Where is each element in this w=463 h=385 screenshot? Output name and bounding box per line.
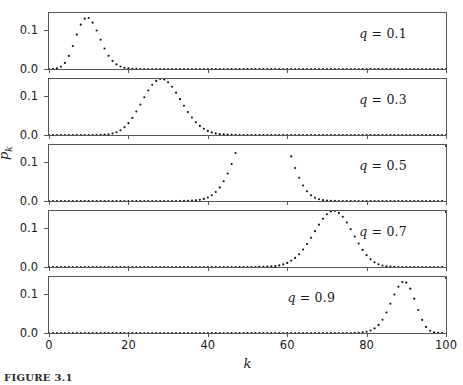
x-tick-mark: [208, 69, 209, 73]
y-tick-mark: [44, 201, 48, 202]
x-tick-mark: [49, 69, 50, 73]
x-tick-label: 100: [426, 338, 463, 352]
x-tick-mark: [128, 201, 129, 205]
annotation-q-0-3: q = 0.3: [359, 92, 407, 107]
x-tick-mark: [287, 267, 288, 271]
x-tick-label: 80: [347, 338, 387, 352]
y-tick-label: 0.1: [8, 155, 38, 169]
y-tick-mark: [44, 96, 48, 97]
x-tick-mark: [367, 267, 368, 271]
x-tick-mark: [128, 267, 129, 271]
y-tick-label: 0.1: [8, 23, 38, 37]
panel-q-0-1: [48, 12, 447, 70]
x-tick-mark: [446, 333, 447, 337]
annotation-q-0-5: q = 0.5: [359, 158, 407, 173]
x-tick-label: 20: [108, 338, 148, 352]
x-tick-mark: [49, 201, 50, 205]
x-tick-label: 60: [267, 338, 307, 352]
x-tick-label: 0: [29, 338, 69, 352]
y-tick-label: 0.0: [8, 128, 38, 142]
x-tick-mark: [128, 333, 129, 337]
x-tick-mark: [446, 69, 447, 73]
x-tick-mark: [367, 135, 368, 139]
panel-q-0-9: [48, 276, 447, 334]
y-tick-mark: [44, 267, 48, 268]
x-tick-mark: [367, 333, 368, 337]
scatter-canvas-4: [49, 277, 446, 333]
x-tick-mark: [287, 135, 288, 139]
panel-q-0-5: [48, 144, 447, 202]
scatter-canvas-1: [49, 79, 446, 135]
x-tick-mark: [446, 135, 447, 139]
y-tick-label: 0.0: [8, 194, 38, 208]
y-tick-mark: [44, 228, 48, 229]
figure-caption: FIGURE 3.1: [4, 372, 73, 385]
y-tick-label: 0.0: [8, 62, 38, 76]
x-tick-mark: [446, 201, 447, 205]
annotation-q-0-1: q = 0.1: [359, 26, 407, 41]
y-tick-mark: [44, 30, 48, 31]
y-tick-mark: [44, 135, 48, 136]
y-tick-mark: [44, 162, 48, 163]
scatter-canvas-0: [49, 13, 446, 69]
y-tick-label: 0.1: [8, 287, 38, 301]
x-tick-mark: [367, 201, 368, 205]
x-tick-mark: [367, 69, 368, 73]
x-tick-mark: [287, 69, 288, 73]
y-tick-label: 0.1: [8, 221, 38, 235]
x-tick-mark: [446, 267, 447, 271]
x-tick-mark: [208, 201, 209, 205]
plot-panels: pk q = 0.1 q = 0.3 q = 0.5 q = 0.7 q = 0…: [0, 0, 463, 360]
x-tick-mark: [208, 267, 209, 271]
x-tick-mark: [49, 267, 50, 271]
y-tick-mark: [44, 294, 48, 295]
x-tick-mark: [287, 201, 288, 205]
y-tick-mark: [44, 333, 48, 334]
panel-q-0-3: [48, 78, 447, 136]
panel-q-0-7: [48, 210, 447, 268]
x-tick-mark: [128, 69, 129, 73]
y-tick-label: 0.1: [8, 89, 38, 103]
scatter-canvas-2: [49, 145, 446, 201]
x-tick-mark: [287, 333, 288, 337]
scatter-canvas-3: [49, 211, 446, 267]
figure-container: pk q = 0.1 q = 0.3 q = 0.5 q = 0.7 q = 0…: [0, 0, 463, 385]
annotation-q-0-9: q = 0.9: [287, 290, 335, 305]
x-tick-label: 40: [188, 338, 228, 352]
annotation-q-0-7: q = 0.7: [359, 224, 407, 239]
x-tick-mark: [208, 135, 209, 139]
x-axis-label: k: [48, 356, 447, 371]
y-tick-label: 0.0: [8, 260, 38, 274]
x-tick-mark: [49, 135, 50, 139]
x-tick-mark: [128, 135, 129, 139]
x-tick-mark: [208, 333, 209, 337]
x-tick-mark: [49, 333, 50, 337]
y-tick-mark: [44, 69, 48, 70]
